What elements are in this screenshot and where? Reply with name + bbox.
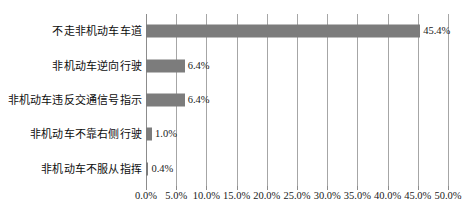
category-label-row: 不走非机动车车道 (0, 14, 142, 48)
gridline-50.0pct (448, 14, 449, 186)
x-tick-label: 5.0% (165, 191, 187, 202)
bar-chart: 不走非机动车车道非机动车逆向行驶非机动车违反交通信号指示非机动车不靠右侧行驶非机… (0, 0, 470, 209)
bar-value-label: 45.4% (420, 26, 450, 37)
bar-row: 6.4% (146, 48, 448, 82)
category-label-row: 非机动车逆向行驶 (0, 48, 142, 82)
x-tick-label: 25.0% (283, 191, 310, 202)
category-label: 不走非机动车车道 (52, 26, 142, 37)
x-tick-label: 30.0% (314, 191, 341, 202)
category-label: 非机动车不靠右侧行驶 (30, 129, 142, 140)
x-tick-label: 10.0% (193, 191, 220, 202)
category-label: 非机动车不服从指挥 (41, 163, 142, 174)
bar (146, 25, 420, 38)
bar-value-label: 6.4% (185, 60, 210, 71)
x-tick-label: 20.0% (253, 191, 280, 202)
x-tick-label: 40.0% (374, 191, 401, 202)
bar (146, 93, 185, 106)
bar-value-label: 0.4% (148, 164, 173, 175)
x-tick-label: 50.0% (434, 191, 461, 202)
x-tick-label: 35.0% (344, 191, 371, 202)
x-tick-label: 15.0% (223, 191, 250, 202)
category-label-row: 非机动车不靠右侧行驶 (0, 117, 142, 151)
category-label: 非机动车逆向行驶 (52, 60, 142, 71)
bar-row: 45.4% (146, 14, 448, 48)
x-tick-label: 45.0% (404, 191, 431, 202)
bar-value-label: 6.4% (185, 95, 210, 106)
category-label-row: 非机动车不服从指挥 (0, 152, 142, 186)
bar-row: 6.4% (146, 83, 448, 117)
bar (146, 59, 185, 72)
category-axis: 不走非机动车车道非机动车逆向行驶非机动车违反交通信号指示非机动车不靠右侧行驶非机… (0, 14, 142, 186)
plot-area: 45.4%6.4%6.4%1.0%0.4% (146, 14, 448, 186)
bar-value-label: 1.0% (152, 129, 177, 140)
x-tick-label: 0.0% (135, 191, 157, 202)
category-label: 非机动车违反交通信号指示 (8, 94, 142, 105)
x-axis: 0.0%5.0%10.0%15.0%20.0%25.0%30.0%35.0%40… (146, 186, 448, 209)
bar-row: 1.0% (146, 117, 448, 151)
bar-row: 0.4% (146, 152, 448, 186)
category-label-row: 非机动车违反交通信号指示 (0, 83, 142, 117)
